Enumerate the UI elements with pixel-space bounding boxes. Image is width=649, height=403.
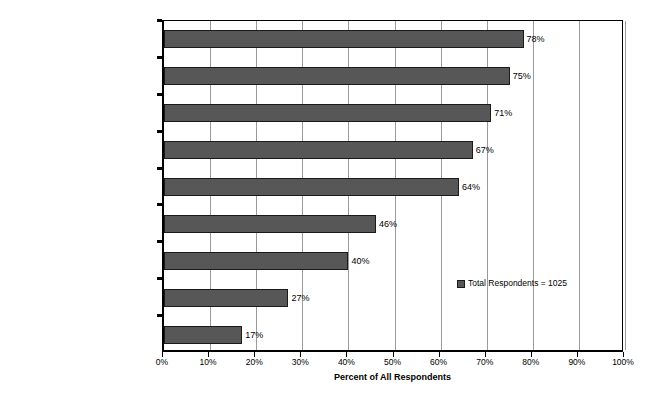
bar-row: 71% xyxy=(164,95,622,132)
y-axis-tick xyxy=(157,240,162,243)
bar-row: 46% xyxy=(164,205,622,242)
y-axis-tick xyxy=(157,314,162,317)
bar-value-label: 71% xyxy=(494,107,512,119)
y-axis-tick xyxy=(157,167,162,170)
bar-row: 75% xyxy=(164,58,622,95)
x-axis-tick-label: 30% xyxy=(280,357,320,368)
x-axis-tick-label: 10% xyxy=(188,357,228,368)
bar-row: 78% xyxy=(164,21,622,58)
y-axis-tick xyxy=(157,19,162,22)
bar xyxy=(164,289,288,307)
bar xyxy=(164,326,242,344)
bar-row: 67% xyxy=(164,132,622,169)
bar xyxy=(164,141,473,159)
x-axis-tick-label: 90% xyxy=(557,357,597,368)
bar-chart: 78%75%71%67%64%46%40%27%17% Decrease in … xyxy=(0,0,649,403)
plot-area: 78%75%71%67%64%46%40%27%17% xyxy=(162,20,623,352)
bar-value-label: 27% xyxy=(291,292,309,304)
x-axis-tick-label: 40% xyxy=(326,357,366,368)
bar-row: 64% xyxy=(164,169,622,206)
x-axis-title: Percent of All Respondents xyxy=(162,372,623,382)
y-axis-tick xyxy=(157,56,162,59)
x-axis-tick-label: 50% xyxy=(373,357,413,368)
chart-legend: Total Respondents = 1025 xyxy=(457,278,567,289)
bar xyxy=(164,215,376,233)
x-axis-tick-label: 60% xyxy=(419,357,459,368)
bar xyxy=(164,178,459,196)
bar-row: 40% xyxy=(164,242,622,279)
bar-row: 17% xyxy=(164,316,622,353)
y-axis-tick xyxy=(157,203,162,206)
bar-rows: 78%75%71%67%64%46%40%27%17% xyxy=(164,21,622,350)
bar-value-label: 75% xyxy=(513,70,531,82)
legend-swatch-icon xyxy=(457,280,465,288)
bar xyxy=(164,30,524,48)
bar xyxy=(164,104,491,122)
x-axis-tick-label: 0% xyxy=(142,357,182,368)
bar-value-label: 46% xyxy=(379,218,397,230)
gridline xyxy=(625,21,626,350)
x-axis-tick-label: 70% xyxy=(465,357,505,368)
bar xyxy=(164,252,348,270)
y-axis-tick xyxy=(157,130,162,133)
x-axis-tick-label: 20% xyxy=(234,357,274,368)
bar-value-label: 67% xyxy=(476,144,494,156)
legend-label: Total Respondents = 1025 xyxy=(468,278,567,289)
bar-value-label: 78% xyxy=(527,33,545,45)
y-axis-tick xyxy=(157,277,162,280)
bar xyxy=(164,67,510,85)
bar-value-label: 40% xyxy=(351,255,369,267)
bar-value-label: 17% xyxy=(245,329,263,341)
y-axis-tick xyxy=(157,93,162,96)
x-axis-tick-label: 100% xyxy=(603,357,643,368)
x-axis-tick-label: 80% xyxy=(511,357,551,368)
bar-value-label: 64% xyxy=(462,181,480,193)
